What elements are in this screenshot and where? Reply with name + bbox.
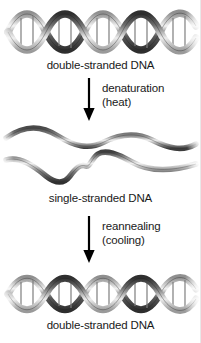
double-helix-top-svg	[0, 6, 201, 58]
double-helix-bottom	[0, 271, 201, 317]
label-reannealing: reannealing (cooling)	[102, 220, 160, 247]
arrow-reannealing	[79, 216, 99, 264]
down-arrow-icon	[79, 78, 99, 122]
helix-strand-group	[8, 13, 196, 51]
dna-denaturation-diagram: double-stranded DNA denaturation (heat)	[0, 0, 201, 343]
down-arrow-icon	[79, 216, 99, 264]
single-strand-upper	[6, 128, 196, 148]
caption-double-stranded-dna-bottom: double-stranded DNA	[0, 319, 201, 331]
double-helix-bottom-svg	[0, 271, 201, 317]
label-denaturation: denaturation (heat)	[102, 82, 164, 109]
double-helix-top	[0, 6, 201, 58]
caption-single-stranded-dna: single-stranded DNA	[0, 192, 201, 204]
arrow-denaturation	[79, 78, 99, 122]
label-reannealing-line1: reannealing	[102, 220, 160, 234]
label-denaturation-line1: denaturation	[102, 82, 164, 96]
label-denaturation-line2: (heat)	[102, 96, 164, 110]
single-strands-svg	[0, 122, 201, 188]
helix-strand-group	[8, 278, 196, 311]
caption-double-stranded-dna-top: double-stranded DNA	[0, 59, 201, 71]
label-reannealing-line2: (cooling)	[102, 234, 160, 248]
single-strand-lower	[6, 152, 196, 182]
single-strands-middle	[0, 122, 201, 188]
